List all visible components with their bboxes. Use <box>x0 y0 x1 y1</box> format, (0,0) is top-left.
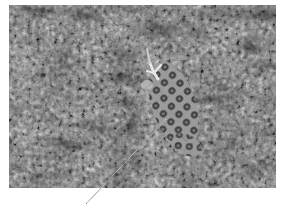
shadow-streaks <box>9 5 276 188</box>
photograph <box>9 5 276 188</box>
lichen-texture <box>9 5 276 188</box>
